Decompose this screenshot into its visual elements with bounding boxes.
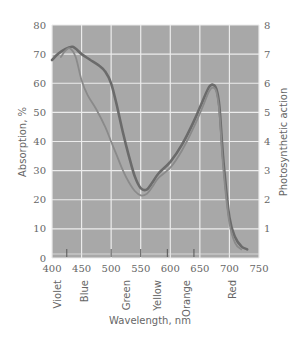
x-tick-label: 550 [131,263,150,274]
left-y-tick-label: 10 [33,223,46,234]
right-y-tick-label: 6 [264,78,270,89]
color-band-label-green: Green [121,280,132,310]
x-tick-label: 700 [220,263,239,274]
color-band-label-red: Red [227,280,238,299]
color-band-label-yellow: Yellow [152,280,163,312]
color-band-label-orange: Orange [181,280,192,317]
left-y-tick-label: 80 [33,20,46,31]
left-y-tick-label: 60 [33,78,46,89]
left-axis-tick-labels: 01020304050607080 [33,20,46,264]
x-tick-label: 450 [72,263,91,274]
right-y-tick-label: 3 [264,165,270,176]
left-y-tick-label: 0 [40,253,46,264]
x-tick-label: 750 [249,263,268,274]
left-y-tick-label: 40 [33,136,46,147]
right-y-tick-label: 5 [264,107,270,118]
right-axis-title: Photosynthetic action [278,88,289,197]
right-y-tick-label: 7 [264,49,270,60]
x-tick-label: 500 [102,263,121,274]
color-band-label-violet: Violet [52,280,63,308]
x-tick-label: 650 [190,263,209,274]
x-axis-title: Wavelength, nm [109,315,191,326]
left-y-tick-label: 20 [33,194,46,205]
x-axis-tick-labels: 400450500550600650700750 [42,263,268,274]
right-y-tick-label: 8 [264,20,270,31]
right-y-tick-label: 2 [264,194,270,205]
left-axis-title: Absorption, % [17,107,28,177]
x-tick-label: 600 [161,263,180,274]
left-y-tick-label: 70 [33,49,46,60]
absorption-action-spectrum-chart: 400450500550600650700750 010203040506070… [0,0,290,342]
left-y-tick-label: 50 [33,107,46,118]
color-band-label-blue: Blue [79,280,90,302]
color-band-labels: VioletBlueGreenYellowOrangeRed [52,280,238,317]
right-y-tick-label: 1 [264,223,270,234]
right-axis-tick-labels: 12345678 [264,20,270,235]
right-y-tick-label: 4 [264,136,270,147]
left-y-tick-label: 30 [33,165,46,176]
x-tick-label: 400 [42,263,61,274]
